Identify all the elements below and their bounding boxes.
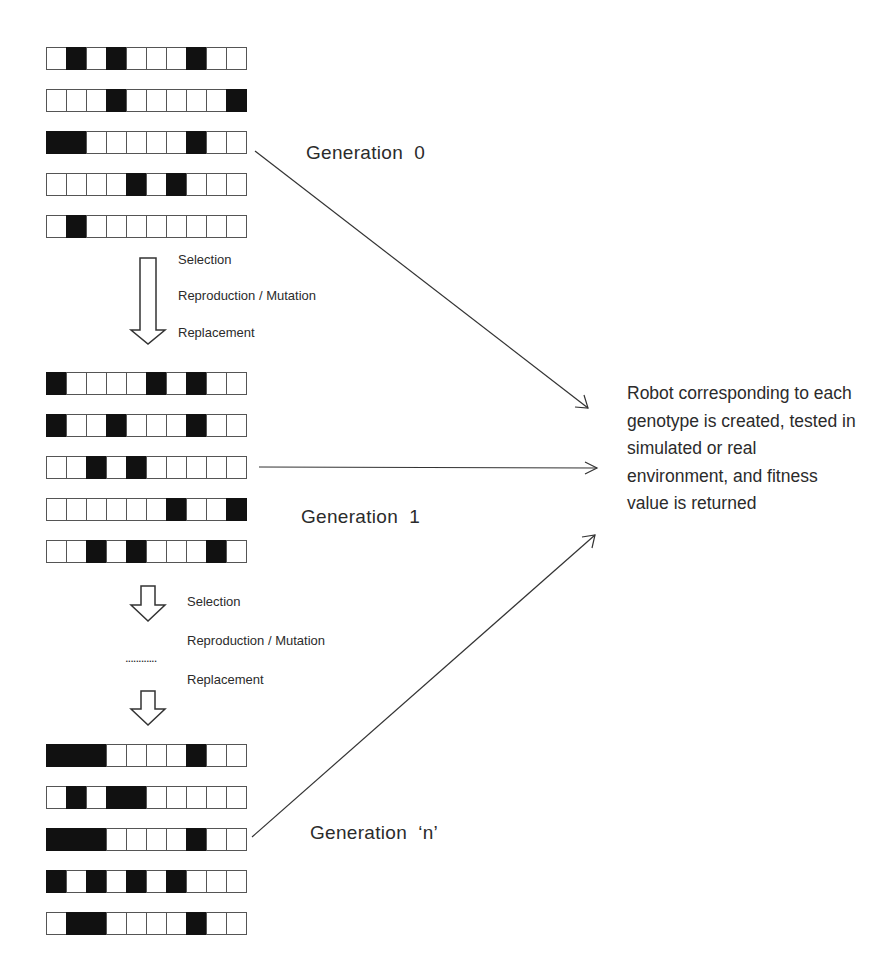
small-down-arrow-icon xyxy=(131,586,165,621)
small-down-arrow-icon xyxy=(131,691,165,725)
arrows-layer xyxy=(0,0,875,980)
large-down-arrow-icon xyxy=(131,258,165,344)
evaluation-arrow-genn xyxy=(252,535,595,837)
evaluation-arrow-gen1 xyxy=(259,462,597,474)
evaluation-arrow-gen0 xyxy=(255,151,588,408)
